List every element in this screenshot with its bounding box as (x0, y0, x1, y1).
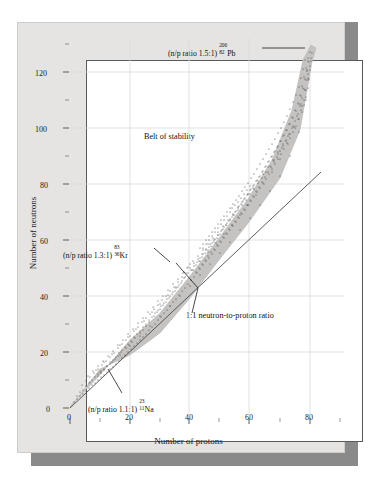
stable-nuclide-dots (73, 51, 312, 402)
belt-of-stability-figure: Number of neutrons Number of protons 0 2… (0, 0, 375, 504)
y-axis-major-ticks (63, 72, 69, 408)
chart-vector-layer (0, 0, 375, 504)
belt-of-stability-band (70, 45, 316, 408)
x-axis-major-ticks (70, 418, 310, 424)
y-axis-minor-ticks (65, 44, 69, 380)
leader-line-kr (154, 248, 170, 262)
leader-line-na (108, 369, 122, 393)
x-axis-minor-ticks (100, 418, 340, 422)
one-to-one-ratio-line (70, 172, 321, 408)
